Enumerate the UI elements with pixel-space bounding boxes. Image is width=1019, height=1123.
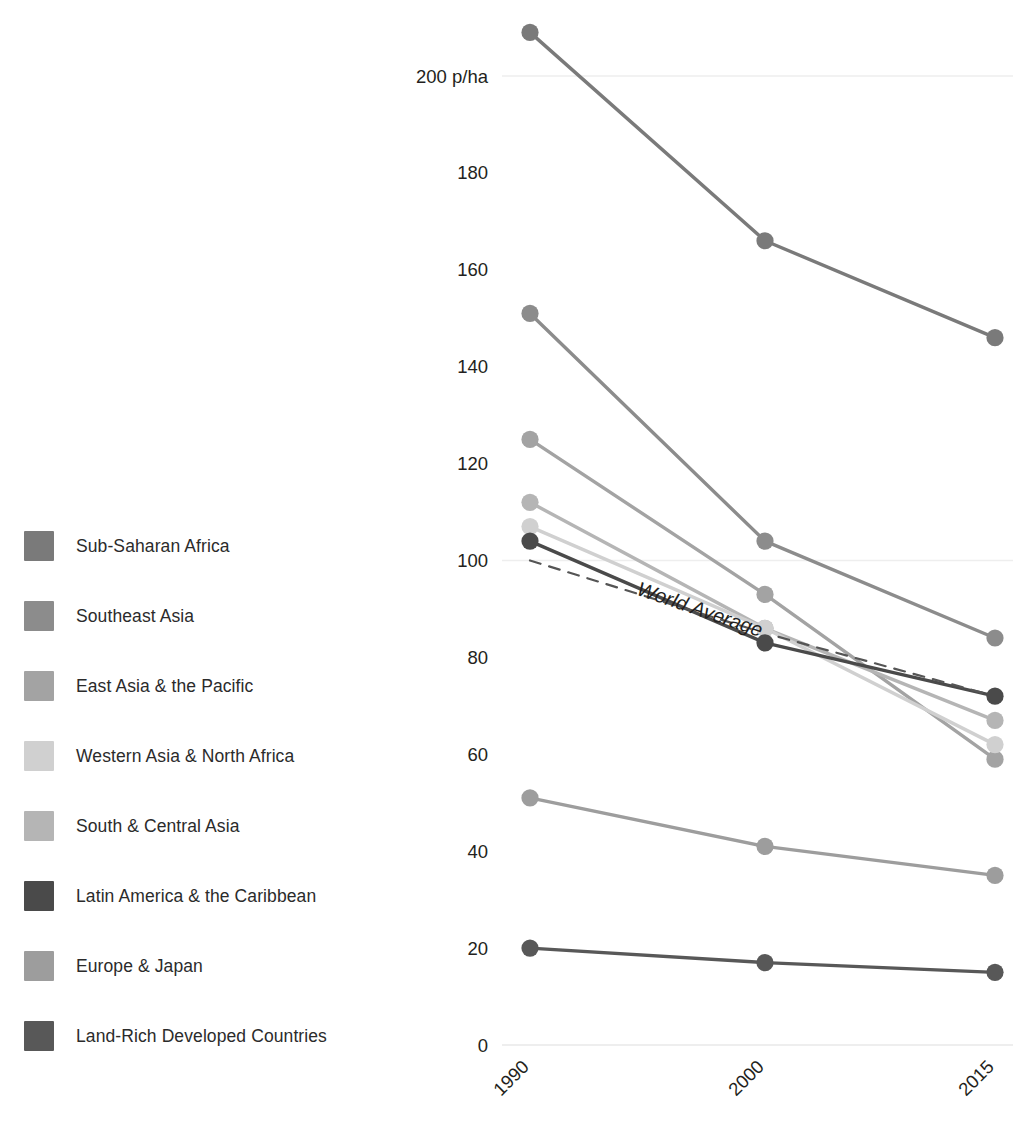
y-tick-label: 60 bbox=[467, 744, 488, 765]
series-line bbox=[530, 541, 995, 696]
y-tick-label: 160 bbox=[457, 259, 488, 280]
legend-swatch-icon bbox=[24, 881, 54, 911]
data-point-marker bbox=[521, 518, 538, 535]
data-point-marker bbox=[521, 431, 538, 448]
y-axis-ticks: 200 p/ha180160140120100806040200 bbox=[416, 66, 489, 1056]
legend-swatch-icon bbox=[24, 811, 54, 841]
data-point-marker bbox=[986, 629, 1003, 646]
legend-item: Western Asia & North Africa bbox=[24, 738, 384, 774]
y-tick-label: 180 bbox=[457, 162, 488, 183]
legend-swatch-icon bbox=[24, 741, 54, 771]
series-line bbox=[530, 527, 995, 745]
annotations-group: World Average bbox=[634, 577, 765, 641]
series-annotation: World Average bbox=[634, 577, 765, 641]
data-point-marker bbox=[756, 533, 773, 550]
legend-swatch-icon bbox=[24, 671, 54, 701]
legend-item: Southeast Asia bbox=[24, 598, 384, 634]
data-point-marker bbox=[521, 533, 538, 550]
data-point-marker bbox=[756, 620, 773, 637]
y-tick-label: 20 bbox=[467, 938, 488, 959]
x-axis-ticks: 199020002015 bbox=[489, 1056, 998, 1100]
y-tick-label: 140 bbox=[457, 356, 488, 377]
legend-item: Sub-Saharan Africa bbox=[24, 528, 384, 564]
legend-swatch-icon bbox=[24, 1021, 54, 1051]
data-point-marker bbox=[521, 940, 538, 957]
y-tick-label: 100 bbox=[457, 550, 488, 571]
data-point-marker bbox=[521, 305, 538, 322]
chart-legend: Sub-Saharan Africa Southeast Asia East A… bbox=[24, 528, 384, 1088]
legend-item-label: Southeast Asia bbox=[76, 606, 194, 627]
data-point-marker bbox=[986, 688, 1003, 705]
legend-swatch-icon bbox=[24, 531, 54, 561]
legend-swatch-icon bbox=[24, 601, 54, 631]
data-point-marker bbox=[986, 751, 1003, 768]
series-line bbox=[530, 32, 995, 337]
y-tick-label: 120 bbox=[457, 453, 488, 474]
y-tick-label: 40 bbox=[467, 841, 488, 862]
data-point-marker bbox=[521, 494, 538, 511]
data-point-marker bbox=[756, 838, 773, 855]
data-point-marker bbox=[756, 954, 773, 971]
gridlines-group bbox=[502, 76, 1013, 1045]
data-point-marker bbox=[986, 867, 1003, 884]
legend-item: Europe & Japan bbox=[24, 948, 384, 984]
series-line bbox=[530, 948, 995, 972]
data-point-marker bbox=[986, 329, 1003, 346]
data-point-marker bbox=[986, 964, 1003, 981]
series-line bbox=[530, 502, 995, 720]
data-point-marker bbox=[756, 634, 773, 651]
data-point-marker bbox=[756, 586, 773, 603]
data-point-marker bbox=[756, 620, 773, 637]
series-markers-group bbox=[521, 24, 1003, 981]
x-tick-label: 2015 bbox=[954, 1056, 998, 1100]
series-line bbox=[530, 439, 995, 759]
legend-item-label: Europe & Japan bbox=[76, 956, 203, 977]
legend-item: Land-Rich Developed Countries bbox=[24, 1018, 384, 1054]
data-point-marker bbox=[521, 24, 538, 41]
legend-item-label: Sub-Saharan Africa bbox=[76, 536, 230, 557]
chart-page: Sub-Saharan Africa Southeast Asia East A… bbox=[0, 0, 1019, 1123]
data-point-marker bbox=[756, 232, 773, 249]
legend-swatch-icon bbox=[24, 951, 54, 981]
series-line bbox=[530, 313, 995, 638]
legend-item-label: Latin America & the Caribbean bbox=[76, 886, 316, 907]
legend-item: Latin America & the Caribbean bbox=[24, 878, 384, 914]
y-tick-label: 200 p/ha bbox=[416, 66, 489, 87]
data-point-marker bbox=[986, 712, 1003, 729]
data-point-marker bbox=[986, 736, 1003, 753]
y-tick-label: 80 bbox=[467, 647, 488, 668]
series-line bbox=[530, 798, 995, 876]
y-tick-label: 0 bbox=[478, 1035, 488, 1056]
x-tick-label: 2000 bbox=[724, 1056, 768, 1100]
legend-item-label: Western Asia & North Africa bbox=[76, 746, 294, 767]
legend-item: South & Central Asia bbox=[24, 808, 384, 844]
series-line bbox=[530, 561, 995, 697]
legend-item-label: South & Central Asia bbox=[76, 816, 239, 837]
legend-item-label: East Asia & the Pacific bbox=[76, 676, 253, 697]
series-lines-group bbox=[530, 32, 995, 972]
legend-item-label: Land-Rich Developed Countries bbox=[76, 1026, 327, 1047]
legend-item: East Asia & the Pacific bbox=[24, 668, 384, 704]
data-point-marker bbox=[521, 789, 538, 806]
x-tick-label: 1990 bbox=[489, 1056, 533, 1100]
